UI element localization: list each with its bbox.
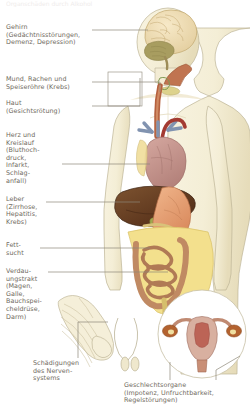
label-nervous-system: Schädigungen des Nerven- systems [33, 360, 79, 383]
anatomy-illustration [0, 0, 250, 411]
diagram-canvas: Organschäden durch Alkohol [0, 0, 250, 411]
label-mouth-throat-esophagus: Mund, Rachen und Speiseröhre (Krebs) [6, 76, 70, 91]
label-obesity: Fett- sucht [6, 242, 24, 257]
label-heart-circulation: Herz und Kreislauf (Bluthoch- druck, Inf… [6, 132, 40, 185]
sperm-cells-illustration [114, 318, 139, 371]
sex-organs-inset [158, 290, 246, 378]
label-liver: Leber (Zirrhose, Hepatitis, Krebs) [6, 196, 37, 226]
label-brain: Gehirn (Gedächtnisstörungen, Demenz, Dep… [6, 24, 80, 47]
label-sex-organs: Geschlechtsorgane (Impotenz, Unfruchtbar… [124, 382, 214, 405]
hand-nerves-illustration [58, 296, 113, 368]
label-skin: Haut (Gesichtsrötung) [6, 100, 60, 115]
label-digestive-tract: Verdau- ungstrakt (Magen, Galle, Bauchsp… [6, 268, 42, 321]
